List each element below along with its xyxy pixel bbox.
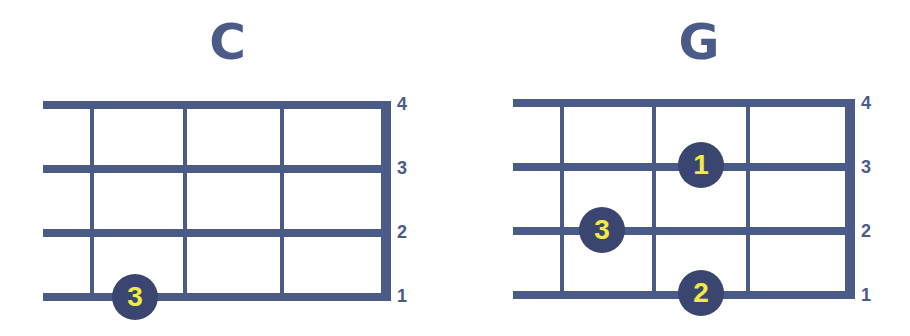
finger-dot: 2 xyxy=(678,270,724,316)
chord-title: C xyxy=(0,12,455,72)
string-label-2: 2 xyxy=(861,221,877,241)
string-label-3: 3 xyxy=(397,158,413,178)
fret-line xyxy=(652,99,656,299)
fret-line xyxy=(90,101,94,301)
string-4 xyxy=(43,101,388,109)
string-label-3: 3 xyxy=(861,157,877,177)
finger-dot: 3 xyxy=(112,274,158,320)
string-label-4: 4 xyxy=(861,93,877,113)
string-label-1: 1 xyxy=(397,286,413,306)
fret-line xyxy=(746,99,750,299)
fret-line xyxy=(183,101,187,301)
string-4 xyxy=(513,99,853,107)
finger-dot: 1 xyxy=(678,142,724,188)
string-label-1: 1 xyxy=(861,285,877,305)
nut-bar xyxy=(845,99,855,299)
nut-bar xyxy=(381,101,391,301)
chord-diagram-c: C 4 3 2 1 3 xyxy=(0,0,455,336)
string-label-4: 4 xyxy=(397,94,413,114)
string-2 xyxy=(513,227,853,235)
fret-line xyxy=(560,99,564,299)
chord-title: G xyxy=(449,12,910,72)
finger-dot: 3 xyxy=(579,207,625,253)
string-label-2: 2 xyxy=(397,222,413,242)
string-3 xyxy=(43,165,388,173)
fret-line xyxy=(280,101,284,301)
string-1 xyxy=(43,293,388,301)
string-2 xyxy=(43,229,388,237)
chord-diagram-g: G 4 3 2 1 1 3 2 xyxy=(455,0,910,336)
